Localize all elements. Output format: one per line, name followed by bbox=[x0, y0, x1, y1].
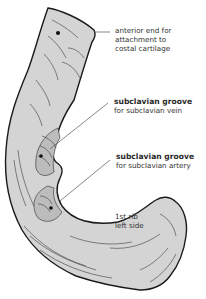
anterior-end-label: anterior end for attachment to costal ca… bbox=[115, 26, 172, 54]
figure-caption: 1st rib left side bbox=[115, 212, 144, 230]
artery-groove-label: subclavian groove for subclavian artery bbox=[116, 152, 194, 170]
vein-groove-subtitle: for subclavian vein bbox=[114, 106, 192, 115]
anterior-end-dot bbox=[56, 31, 60, 35]
anterior-end-line-3: costal cartilage bbox=[115, 44, 172, 53]
caption-line-1: 1st rib bbox=[115, 212, 144, 221]
rib-illustration bbox=[0, 0, 206, 299]
caption-line-2: left side bbox=[115, 221, 144, 230]
artery-groove-leader bbox=[60, 160, 110, 201]
vein-groove-label: subclavian groove for subclavian vein bbox=[114, 97, 192, 115]
artery-groove-title: subclavian groove bbox=[116, 152, 194, 161]
artery-groove-dot bbox=[49, 206, 53, 210]
vein-groove-dot bbox=[39, 154, 43, 158]
vein-groove-title: subclavian groove bbox=[114, 97, 192, 106]
anterior-end-line-2: attachment to bbox=[115, 35, 172, 44]
artery-groove-subtitle: for subclavian artery bbox=[116, 161, 194, 170]
anterior-end-line-1: anterior end for bbox=[115, 26, 172, 35]
